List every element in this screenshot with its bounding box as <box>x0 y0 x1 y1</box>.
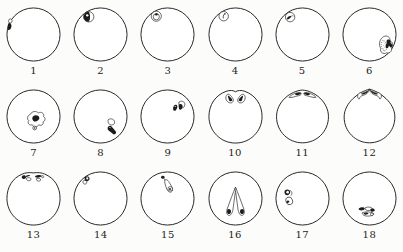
egg-outline <box>74 172 127 225</box>
egg-mark <box>224 13 225 14</box>
egg-drawing <box>340 169 399 228</box>
egg-mark <box>219 11 228 20</box>
egg-stage-cell: 5 <box>269 5 336 77</box>
egg-drawing <box>4 5 63 64</box>
egg-mark <box>108 119 115 125</box>
egg-drawing <box>71 169 130 228</box>
egg-stage-cell: 15 <box>134 169 201 241</box>
egg-stage-number: 13 <box>27 229 41 241</box>
egg-outline <box>74 8 127 61</box>
egg-stage-number: 7 <box>30 147 37 159</box>
egg-mark <box>370 213 373 216</box>
egg-stage-cell: 2 <box>67 5 134 77</box>
egg-stage-cell: 3 <box>134 5 201 77</box>
egg-outline <box>276 172 329 225</box>
egg-stage-number: 6 <box>366 65 373 77</box>
egg-outline <box>141 8 194 61</box>
egg-stage-cell: 17 <box>269 169 336 241</box>
egg-stage-cell: 13 <box>0 169 67 241</box>
egg-outline <box>141 90 194 143</box>
egg-drawing <box>4 87 63 146</box>
scanned-figure-page: 123456789101112131415161718 <box>0 0 403 252</box>
egg-drawing <box>340 5 399 64</box>
egg-outline <box>7 173 60 225</box>
egg-stage-number: 4 <box>232 65 239 77</box>
egg-stage-cell: 8 <box>67 87 134 159</box>
egg-stage-number: 8 <box>97 147 104 159</box>
egg-drawing <box>273 5 332 64</box>
egg-stage-cell: 14 <box>67 169 134 241</box>
egg-stage-cell: 4 <box>201 5 268 77</box>
egg-outline <box>344 89 395 143</box>
egg-drawing <box>138 169 197 228</box>
egg-stage-number: 9 <box>164 147 171 159</box>
egg-mark <box>86 14 88 16</box>
egg-drawing <box>206 87 265 146</box>
egg-outline <box>276 90 328 143</box>
egg-mark <box>26 178 31 181</box>
egg-stage-number: 12 <box>363 147 377 159</box>
egg-stage-cell: 12 <box>336 87 403 159</box>
egg-outline <box>209 90 262 143</box>
egg-stage-number: 2 <box>97 65 104 77</box>
egg-drawing <box>206 5 265 64</box>
egg-mark <box>9 19 13 23</box>
egg-stage-grid: 123456789101112131415161718 <box>0 5 403 241</box>
egg-stage-number: 15 <box>161 229 175 241</box>
egg-mark <box>110 127 111 128</box>
egg-outline <box>209 172 262 225</box>
egg-mark <box>169 188 171 190</box>
egg-stage-cell: 18 <box>336 169 403 241</box>
egg-drawing <box>4 169 63 228</box>
egg-drawing <box>206 169 265 228</box>
egg-outline <box>7 8 60 61</box>
egg-stage-cell: 6 <box>336 5 403 77</box>
egg-mark <box>286 191 289 194</box>
egg-mark <box>42 176 44 178</box>
egg-stage-number: 17 <box>295 229 309 241</box>
egg-drawing <box>138 87 197 146</box>
egg-stage-number: 18 <box>363 229 377 241</box>
egg-stage-number: 16 <box>228 229 242 241</box>
egg-stage-cell: 11 <box>269 87 336 159</box>
egg-stage-number: 1 <box>30 65 37 77</box>
egg-mark <box>37 178 41 181</box>
egg-stage-cell: 1 <box>0 5 67 77</box>
egg-stage-number: 5 <box>299 65 306 77</box>
egg-drawing <box>273 87 332 146</box>
egg-mark <box>86 177 88 179</box>
egg-drawing <box>71 5 130 64</box>
egg-outline <box>74 90 127 143</box>
egg-stage-number: 11 <box>295 147 309 159</box>
egg-outline <box>209 8 262 61</box>
egg-stage-cell: 10 <box>201 87 268 159</box>
egg-outline <box>276 8 329 61</box>
egg-drawing <box>71 87 130 146</box>
egg-stage-cell: 9 <box>134 87 201 159</box>
egg-drawing <box>273 169 332 228</box>
egg-stage-cell: 7 <box>0 87 67 159</box>
egg-outline <box>343 172 396 225</box>
egg-stage-number: 10 <box>228 147 242 159</box>
egg-stage-number: 3 <box>164 65 171 77</box>
egg-stage-number: 14 <box>94 229 108 241</box>
egg-drawing <box>138 5 197 64</box>
egg-stage-cell: 16 <box>201 169 268 241</box>
egg-mark <box>34 127 35 128</box>
egg-drawing <box>340 87 399 146</box>
egg-mark <box>175 106 176 107</box>
